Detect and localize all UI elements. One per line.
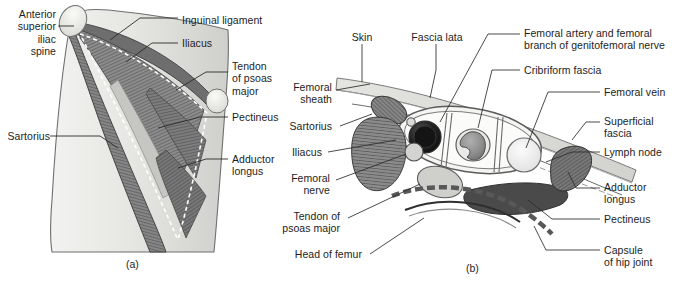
label-superficial-fascia: Superficial fascia [604,115,654,140]
label-pectineus-a: Pectineus [232,111,279,123]
label-anterior-superior-iliac-spine: Anterior superior iliac spine [2,8,56,58]
iliacus-section [352,117,406,191]
label-sartorius-a: Sartorius [0,130,50,142]
label-skin: Skin [342,31,382,43]
lymph-node [507,138,541,172]
label-lymph-node: Lymph node [604,146,662,158]
pectineus-section [464,183,568,215]
label-adductor-longus-b: Adductor longus [604,181,646,206]
panel-b-caption: (b) [466,262,479,274]
panel-a-caption: (a) [126,258,139,270]
label-tendon-of-psoas-major-a: Tendon of psoas major [232,60,272,97]
label-femoral-vein: Femoral vein [604,86,665,98]
label-inguinal-ligament: Inguinal ligament [182,14,262,26]
label-pectineus-b: Pectineus [604,213,651,225]
label-iliacus-a: Iliacus [182,37,212,49]
label-iliacus-b: Iliacus [282,146,322,158]
label-fascia-lata: Fascia lata [404,31,470,43]
label-sartorius-b: Sartorius [278,120,332,132]
anatomy-figure: Anterior superior iliac spine Inguinal l… [0,0,677,287]
label-tendon-of-psoas-major-b: Tendon of psoas major [272,210,340,235]
adductor-longus-section [551,146,592,191]
label-adductor-longus-a: Adductor longus [232,153,274,178]
label-head-of-femur: Head of femur [282,248,362,260]
pubic-tubercle-bone [206,89,228,113]
label-femoral-sheath: Femoral sheath [282,81,332,106]
label-capsule-of-hip-joint: Capsule of hip joint [604,244,652,269]
label-cribriform-fascia: Cribriform fascia [524,64,601,76]
genitofemoral-nerve-branch [407,118,415,126]
label-femoral-artery-and-genitofemoral-nerve: Femoral artery and femoral branch of gen… [524,27,665,52]
femoral-nerve-section [405,143,423,161]
label-femoral-nerve: Femoral nerve [276,172,330,197]
